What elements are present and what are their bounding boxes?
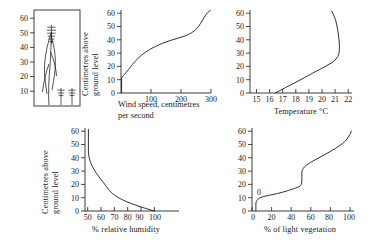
light-chart: 60 50 40 30 20 10 0	[222, 122, 368, 244]
temp-xtick-20: 20	[318, 95, 326, 104]
temp-x-axis-label: Temperature °C	[274, 107, 328, 116]
temp-xtick-15: 15	[253, 95, 261, 104]
light-y-axis: 60 50 40 30 20 10 0	[238, 127, 252, 216]
light-xtick-0: 0	[251, 213, 255, 222]
plant-ytick-10: 10	[20, 87, 28, 96]
wind-ytick-20: 20	[107, 62, 115, 71]
humidity-xtick-90: 90	[136, 213, 144, 222]
wind-y-axis-label-line1: Centimetres above	[81, 32, 90, 96]
light-x-axis: 0 20 40 60 80 100	[251, 207, 355, 222]
wind-ytick-40: 40	[107, 36, 115, 45]
humidity-y-axis-label-line2: ground level	[51, 171, 60, 214]
light-ytick-20: 20	[238, 180, 246, 189]
temperature-curve	[275, 11, 339, 93]
temp-ytick-10: 10	[236, 76, 244, 85]
light-ytick-40: 40	[238, 154, 246, 163]
wind-x-label-line2: per second	[118, 111, 228, 122]
plant-profile-svg: 60 50 40 30 20 10	[4, 4, 84, 112]
humidity-xtick-100: 100	[149, 213, 161, 222]
wind-speed-curve	[122, 10, 211, 93]
wind-ytick-60: 60	[107, 9, 115, 18]
wind-ytick-0: 0	[111, 89, 115, 98]
wind-speed-panel: Centimetres above ground level 60 50 40 …	[78, 4, 214, 120]
humidity-ytick-60: 60	[71, 127, 79, 136]
wind-ytick-10: 10	[107, 76, 115, 85]
light-xtick-80: 80	[325, 213, 333, 222]
light-ytick-0: 0	[242, 207, 246, 216]
wind-ytick-50: 50	[107, 22, 115, 31]
humidity-ytick-50: 50	[71, 140, 79, 149]
temp-xtick-17: 17	[279, 95, 287, 104]
plant-ytick-30: 30	[20, 58, 28, 67]
humidity-ytick-0: 0	[75, 207, 79, 216]
temp-ytick-60: 60	[236, 9, 244, 18]
humidity-xtick-60: 60	[97, 213, 105, 222]
light-xtick-40: 40	[287, 213, 295, 222]
light-curve	[256, 131, 352, 211]
temp-xtick-22: 22	[344, 95, 352, 104]
microclimate-figure: 60 50 40 30 20 10	[0, 0, 371, 246]
temp-xtick-19: 19	[305, 95, 313, 104]
temperature-panel: 60 50 40 30 20 10 0	[218, 4, 368, 116]
light-ytick-60: 60	[238, 127, 246, 136]
humidity-ytick-30: 30	[71, 167, 79, 176]
wind-y-axis: 60 50 40 30 20 10 0	[107, 9, 121, 98]
humidity-xtick-50: 50	[84, 213, 92, 222]
temp-ytick-40: 40	[236, 36, 244, 45]
wind-x-label-line1: Wind speed, centimetres	[118, 100, 228, 111]
wind-x-axis-caption: Wind speed, centimetres per second	[118, 100, 228, 121]
humidity-ytick-20: 20	[71, 180, 79, 189]
temp-x-axis: 15 16 17 18 19 20 21 22	[253, 89, 353, 104]
light-curve-annotation: 0	[257, 188, 261, 197]
plant-profile-panel: 60 50 40 30 20 10	[4, 4, 84, 112]
humidity-x-axis-label: % relative humidity	[92, 225, 161, 234]
light-ytick-30: 30	[238, 167, 246, 176]
light-panel: 60 50 40 30 20 10 0	[222, 122, 368, 244]
humidity-ytick-40: 40	[71, 154, 79, 163]
temp-xtick-16: 16	[266, 95, 274, 104]
temp-y-axis: 60 50 40 30 20 10 0	[236, 9, 250, 98]
plant-ytick-20: 20	[20, 72, 28, 81]
temp-xtick-21: 21	[331, 95, 339, 104]
light-xtick-100: 100	[343, 213, 355, 222]
humidity-ytick-10: 10	[71, 194, 79, 203]
temp-ytick-0: 0	[240, 89, 244, 98]
humidity-curve	[88, 129, 154, 211]
light-ytick-10: 10	[238, 194, 246, 203]
plant-ytick-60: 60	[20, 14, 28, 23]
humidity-panel: Centimetres above ground level 60 50 40 …	[38, 122, 198, 244]
light-xtick-20: 20	[268, 213, 276, 222]
plant-ytick-40: 40	[20, 43, 28, 52]
light-ytick-50: 50	[238, 140, 246, 149]
humidity-xtick-70: 70	[110, 213, 118, 222]
temp-ytick-20: 20	[236, 62, 244, 71]
light-x-axis-label: % of light vegetation	[264, 225, 337, 234]
plant-y-axis: 60 50 40 30 20 10	[20, 14, 34, 96]
temp-ytick-50: 50	[236, 22, 244, 31]
humidity-chart: Centimetres above ground level 60 50 40 …	[38, 122, 198, 244]
plant-box-frame	[34, 10, 80, 106]
temp-ytick-30: 30	[236, 49, 244, 58]
humidity-y-axis: 60 50 40 30 20 10 0	[71, 127, 85, 216]
wind-ytick-30: 30	[107, 49, 115, 58]
temperature-chart: 60 50 40 30 20 10 0	[218, 4, 368, 116]
humidity-xtick-80: 80	[124, 213, 132, 222]
wind-y-axis-label-line2: ground level	[91, 53, 100, 96]
light-xtick-60: 60	[307, 213, 315, 222]
temp-xtick-18: 18	[292, 95, 300, 104]
plant-ytick-50: 50	[20, 29, 28, 38]
humidity-y-axis-label-line1: Centimetres above	[41, 150, 50, 214]
